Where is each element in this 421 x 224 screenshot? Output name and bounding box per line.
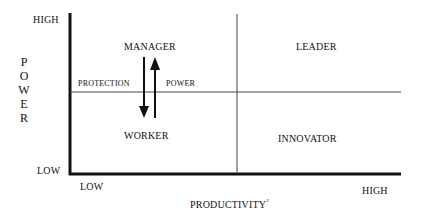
up-arrow-icon <box>150 57 160 118</box>
protection-label: PROTECTION <box>78 79 130 88</box>
quadrant-worker-label: WORKER <box>124 130 169 141</box>
y-axis-title-letter: P <box>18 55 30 69</box>
x-axis-title: PRODUCTIVITY2 <box>190 198 269 210</box>
x-axis-high-label: HIGH <box>362 185 388 196</box>
y-axis-title-letter: E <box>18 97 30 111</box>
quadrant-innovator-label: INNOVATOR <box>278 133 337 144</box>
quadrant-manager-label: MANAGER <box>124 41 176 52</box>
quadrant-lines <box>0 0 421 224</box>
quadrant-leader-label: LEADER <box>296 41 337 52</box>
y-axis-high-label: HIGH <box>33 14 59 25</box>
y-axis-title-letter: W <box>18 83 30 97</box>
y-axis-title: P O W E R <box>18 55 30 125</box>
power-label: POWER <box>166 79 195 88</box>
x-axis-title-superscript: 2 <box>266 198 269 203</box>
down-arrow-icon <box>139 57 149 118</box>
y-axis-title-letter: R <box>18 111 30 125</box>
x-axis-title-text: PRODUCTIVITY <box>190 199 266 210</box>
y-axis-low-label: LOW <box>37 165 60 176</box>
x-axis-low-label: LOW <box>80 181 103 192</box>
y-axis-title-letter: O <box>18 69 30 83</box>
